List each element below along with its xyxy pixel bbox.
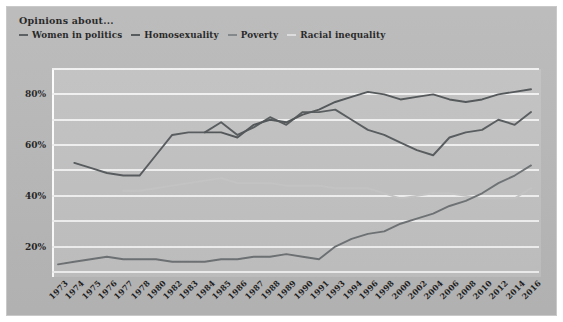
series-line (58, 165, 531, 264)
series-line (123, 178, 531, 198)
legend-line-icon (131, 34, 140, 36)
y-axis: 20%40%60%80% (7, 69, 50, 277)
legend-item-label: Poverty (241, 30, 278, 40)
series-line (74, 110, 531, 176)
legend-line-icon (228, 34, 237, 36)
legend-line-icon (19, 34, 28, 36)
y-axis-tick-label: 40% (25, 191, 46, 201)
chart-header: Opinions about... Women in politicsHomos… (19, 15, 539, 40)
legend-item[interactable]: Racial inequality (287, 30, 385, 40)
legend-item-label: Women in politics (32, 30, 122, 40)
page-title: Opinions about... (19, 15, 539, 26)
legend-item[interactable]: Poverty (228, 30, 278, 40)
legend-line-icon (287, 34, 296, 36)
y-axis-tick-label: 60% (25, 140, 46, 150)
chart-screenshot: Opinions about... Women in politicsHomos… (0, 0, 563, 322)
plot-area (52, 69, 539, 277)
y-axis-tick-label: 20% (25, 242, 46, 252)
legend-item[interactable]: Homosexuality (131, 30, 218, 40)
legend-item-label: Homosexuality (144, 30, 218, 40)
legend-item[interactable]: Women in politics (19, 30, 122, 40)
series-layer (52, 69, 539, 277)
y-axis-tick-label: 80% (25, 89, 46, 99)
chart-legend: Women in politicsHomosexualityPovertyRac… (19, 30, 539, 40)
legend-item-label: Racial inequality (300, 30, 385, 40)
chart-panel: Opinions about... Women in politicsHomos… (6, 6, 557, 316)
x-axis: 1973197419751976197719781980198219831984… (52, 278, 539, 322)
